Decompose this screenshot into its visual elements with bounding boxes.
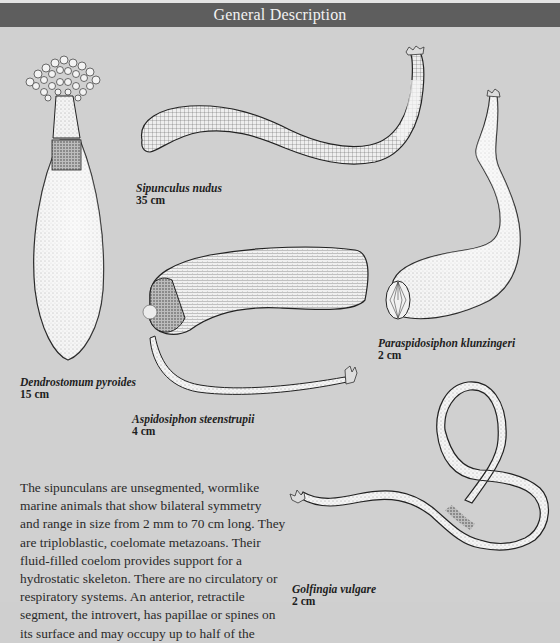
- section-header: General Description: [0, 3, 560, 27]
- species-size: 4 cm: [132, 425, 254, 437]
- species-name: Dendrostomum pyroides: [20, 376, 136, 388]
- description-paragraph: The sipunculans are unsegmented, wormlik…: [20, 479, 290, 643]
- paragraph-line: respiratory systems. An anterior, retrac…: [20, 588, 290, 606]
- anal-shield: [386, 281, 410, 319]
- paragraph-line: segment, the introvert, has papillae or …: [20, 606, 290, 624]
- paragraph-line: fluid-filled coelom provides support for…: [20, 552, 290, 570]
- caption-sipunculus: Sipunculus nudus 35 cm: [136, 182, 222, 206]
- species-name: Sipunculus nudus: [136, 182, 222, 194]
- species-name: Golfingia vulgare: [292, 583, 376, 595]
- caption-dendrostomum: Dendrostomum pyroides 15 cm: [20, 376, 136, 400]
- paragraph-line: are triploblastic, coelomate metazoans. …: [20, 534, 290, 552]
- caption-aspidosiphon: Aspidosiphon steenstrupii 4 cm: [132, 413, 254, 437]
- paragraph-line: and range in size from 2 mm to 70 cm lon…: [20, 515, 290, 533]
- aspidosiphon-illustration: [143, 247, 368, 394]
- paragraph-line: its surface and may occupy up to half of…: [20, 625, 290, 643]
- dendrostomum-illustration: [26, 56, 104, 360]
- species-size: 35 cm: [136, 194, 222, 206]
- paragraph-line: hydrostatic skeleton. There are no circu…: [20, 570, 290, 588]
- species-size: 15 cm: [20, 388, 136, 400]
- species-name: Paraspidosiphon klunzingeri: [378, 337, 515, 349]
- caption-golfingia: Golfingia vulgare 2 cm: [292, 583, 376, 607]
- paragraph-line: The sipunculans are unsegmented, wormlik…: [20, 479, 290, 497]
- species-size: 2 cm: [292, 595, 376, 607]
- section-title: General Description: [213, 6, 346, 23]
- paragraph-line: marine animals that show bilateral symme…: [20, 497, 290, 515]
- caption-paraspidosiphon: Paraspidosiphon klunzingeri 2 cm: [378, 337, 515, 361]
- golfingia-illustration: [290, 382, 548, 550]
- species-size: 2 cm: [378, 349, 515, 361]
- species-name: Aspidosiphon steenstrupii: [132, 413, 254, 425]
- tentacle-crown: [26, 56, 100, 101]
- sipunculus-illustration: [142, 46, 424, 164]
